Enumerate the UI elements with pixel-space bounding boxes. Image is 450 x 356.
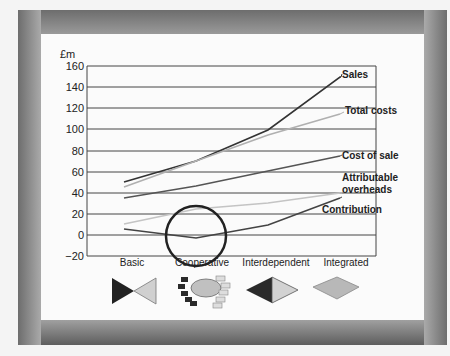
y-tick: 20 <box>72 208 84 220</box>
gridlines <box>87 66 376 256</box>
x-category: Interdependent <box>242 257 310 268</box>
series-attributable-overheads <box>124 193 340 224</box>
label-total-costs: Total costs <box>345 105 397 116</box>
y-tick: 0 <box>78 229 84 241</box>
y-tick: 40 <box>72 187 84 199</box>
y-tick: 60 <box>72 166 84 178</box>
y-tick: 160 <box>66 60 84 72</box>
network-cluster-icon <box>178 276 230 308</box>
bowtie-icon <box>112 278 156 304</box>
diamond-icon <box>313 277 359 299</box>
y-tick: −20 <box>65 250 84 262</box>
label-attributable-overheads: Attributable <box>342 172 399 183</box>
y-tick: 120 <box>66 102 84 114</box>
label-cost-of-sale: Cost of sale <box>342 150 399 161</box>
y-tick: 100 <box>66 123 84 135</box>
y-tick: 80 <box>72 145 84 157</box>
label-attributable-overheads-2: overheads <box>342 184 392 195</box>
series-cost-of-sale <box>124 156 340 198</box>
x-category: Basic <box>120 257 144 268</box>
line-chart: £m 160 140 120 100 80 60 40 20 0 −20 Bas… <box>0 0 450 356</box>
x-axis: Basic Cooperative Interdependent Integra… <box>120 257 369 268</box>
label-contribution: Contribution <box>322 204 382 215</box>
x-category: Integrated <box>323 257 368 268</box>
y-axis: £m 160 140 120 100 80 60 40 20 0 −20 <box>60 48 84 262</box>
y-unit-label: £m <box>60 48 75 60</box>
split-diamond-icon <box>246 277 298 303</box>
label-sales: Sales <box>342 69 369 80</box>
y-tick: 140 <box>66 81 84 93</box>
